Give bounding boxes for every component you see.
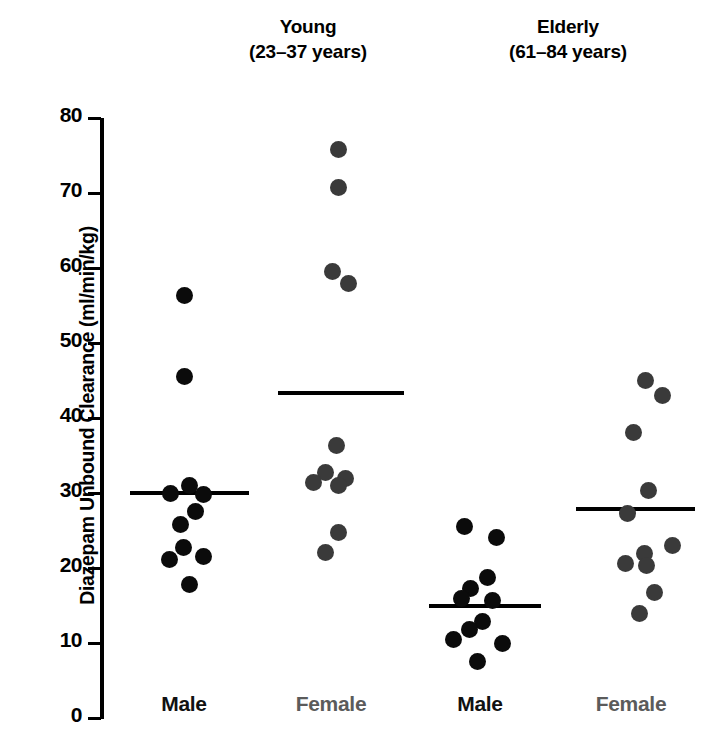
data-point xyxy=(445,631,462,648)
data-point xyxy=(484,592,501,609)
data-point xyxy=(640,482,657,499)
data-point xyxy=(625,424,642,441)
data-point xyxy=(175,539,192,556)
data-point xyxy=(494,635,511,652)
data-point xyxy=(453,590,470,607)
data-point xyxy=(330,141,347,158)
plot-area: 80706050403020100 xyxy=(0,0,713,742)
data-point xyxy=(330,477,347,494)
x-label-elderly-male: Male xyxy=(400,692,560,716)
y-axis-tick xyxy=(88,117,101,120)
y-axis-tick-label: 20 xyxy=(18,553,82,577)
x-label-young-male: Male xyxy=(104,692,264,716)
x-label-elderly-female: Female xyxy=(551,692,711,716)
y-axis-tick xyxy=(88,717,101,720)
y-axis-tick-label: 10 xyxy=(18,628,82,652)
data-point xyxy=(305,474,322,491)
data-point xyxy=(181,576,198,593)
y-axis-tick xyxy=(88,342,101,345)
mean-line xyxy=(278,391,404,395)
data-point xyxy=(161,551,178,568)
y-axis-tick-label: 80 xyxy=(18,103,82,127)
data-point xyxy=(340,275,357,292)
data-point xyxy=(187,503,204,520)
data-point xyxy=(646,584,663,601)
data-point xyxy=(328,437,345,454)
y-axis-tick xyxy=(88,267,101,270)
data-point xyxy=(176,368,193,385)
data-point xyxy=(324,263,341,280)
data-point xyxy=(637,372,654,389)
data-point xyxy=(479,569,496,586)
data-point xyxy=(195,548,212,565)
data-point xyxy=(176,287,193,304)
x-label-young-female: Female xyxy=(251,692,411,716)
data-point xyxy=(654,387,671,404)
y-axis-tick-label: 0 xyxy=(18,703,82,727)
data-point xyxy=(664,537,681,554)
scatter-plot-figure: Young (23–37 years) Elderly (61–84 years… xyxy=(0,0,713,742)
y-axis-tick-label: 30 xyxy=(18,478,82,502)
y-axis-tick xyxy=(88,417,101,420)
y-axis-tick xyxy=(88,492,101,495)
data-point xyxy=(461,621,478,638)
data-point xyxy=(619,505,636,522)
y-axis-tick-label: 60 xyxy=(18,253,82,277)
y-axis-tick-label: 40 xyxy=(18,403,82,427)
data-point xyxy=(456,518,473,535)
data-point xyxy=(330,179,347,196)
mean-line xyxy=(576,507,695,511)
data-point xyxy=(638,557,655,574)
data-point xyxy=(317,544,334,561)
y-axis-tick-label: 70 xyxy=(18,178,82,202)
data-point xyxy=(488,529,505,546)
data-point xyxy=(469,653,486,670)
y-axis-tick-label: 50 xyxy=(18,328,82,352)
data-point xyxy=(162,485,179,502)
y-axis-tick xyxy=(88,567,101,570)
y-axis-tick xyxy=(88,642,101,645)
data-point xyxy=(617,555,634,572)
data-point xyxy=(195,486,212,503)
data-point xyxy=(172,516,189,533)
data-point xyxy=(631,605,648,622)
data-point xyxy=(330,524,347,541)
y-axis-tick xyxy=(88,192,101,195)
